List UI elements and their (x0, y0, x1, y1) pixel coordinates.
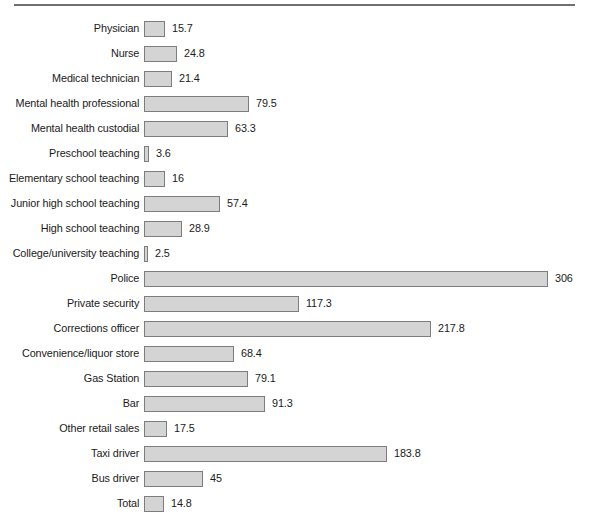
bar-value-label: 217.8 (438, 322, 465, 335)
bar-category-label: Bar (9, 397, 144, 410)
bar-row: Gas Station79.1 (0, 366, 589, 391)
bar (144, 71, 172, 87)
bar (144, 21, 165, 37)
bar-category-label: Convenience/liquor store (9, 347, 144, 360)
bar-track: 15.7 (144, 21, 589, 37)
bar-track: 183.8 (144, 446, 589, 462)
chart-plot-area: Physician15.7Nurse24.8Medical technician… (0, 16, 589, 516)
bar-row: Private security117.3 (0, 291, 589, 316)
bar-value-label: 79.1 (255, 372, 276, 385)
bar-row: Convenience/liquor store68.4 (0, 341, 589, 366)
bar-track: 17.5 (144, 421, 589, 437)
bar-value-label: 15.7 (172, 22, 193, 35)
bar-category-label: College/university teaching (9, 247, 144, 260)
bar (144, 296, 299, 312)
bar-category-label: Police (9, 272, 144, 285)
bar-track: 79.5 (144, 96, 589, 112)
bar-track: 2.5 (144, 246, 589, 262)
bar (144, 96, 249, 112)
bar-category-label: Gas Station (9, 372, 144, 385)
bar-category-label: Mental health custodial (9, 122, 144, 135)
bar-category-label: Elementary school teaching (9, 172, 144, 185)
bar (144, 321, 431, 337)
bar-value-label: 45 (210, 472, 222, 485)
bar-category-label: Bus driver (9, 472, 144, 485)
bar-value-label: 24.8 (184, 47, 205, 60)
bar-category-label: Total (9, 497, 144, 510)
bar (144, 196, 220, 212)
bar-category-label: High school teaching (9, 222, 144, 235)
bar-row: Preschool teaching3.6 (0, 141, 589, 166)
bar (144, 171, 165, 187)
bar-row: Junior high school teaching57.4 (0, 191, 589, 216)
bar-category-label: Private security (9, 297, 144, 310)
bar-category-label: Corrections officer (9, 322, 144, 335)
bar-track: 91.3 (144, 396, 589, 412)
bar-row: Nurse24.8 (0, 41, 589, 66)
bar-category-label: Physician (9, 22, 144, 35)
bar (144, 421, 167, 437)
bar-track: 16 (144, 171, 589, 187)
bar-value-label: 183.8 (394, 447, 421, 460)
bar (144, 346, 234, 362)
bar-value-label: 21.4 (179, 72, 200, 85)
bar (144, 46, 177, 62)
bar-category-label: Mental health professional (9, 97, 144, 110)
bar-row: Taxi driver183.8 (0, 441, 589, 466)
bar (144, 221, 182, 237)
bar-track: 306 (144, 271, 589, 287)
bar-row: Elementary school teaching16 (0, 166, 589, 191)
bar (144, 496, 164, 512)
bar-row: Police306 (0, 266, 589, 291)
top-divider-rule (14, 4, 575, 6)
bar (144, 471, 203, 487)
bar-value-label: 306 (555, 272, 573, 285)
bar-value-label: 16 (172, 172, 184, 185)
bar-track: 117.3 (144, 296, 589, 312)
bar-track: 21.4 (144, 71, 589, 87)
bar-category-label: Nurse (9, 47, 144, 60)
bar (144, 371, 248, 387)
bar-chart: Physician15.7Nurse24.8Medical technician… (0, 0, 589, 517)
bar-row: Mental health custodial63.3 (0, 116, 589, 141)
bar (144, 271, 548, 287)
bar-value-label: 28.9 (189, 222, 210, 235)
bar (144, 246, 148, 262)
bar-track: 217.8 (144, 321, 589, 337)
bar-row: Mental health professional79.5 (0, 91, 589, 116)
bar-track: 14.8 (144, 496, 589, 512)
bar-row: Physician15.7 (0, 16, 589, 41)
bar (144, 446, 387, 462)
bar-row: Corrections officer217.8 (0, 316, 589, 341)
bar-row: Other retail sales17.5 (0, 416, 589, 441)
bar-value-label: 3.6 (156, 147, 171, 160)
bar-track: 3.6 (144, 146, 589, 162)
bar-value-label: 17.5 (174, 422, 195, 435)
bar-category-label: Junior high school teaching (9, 197, 144, 210)
bar-category-label: Other retail sales (9, 422, 144, 435)
bar-value-label: 14.8 (171, 497, 192, 510)
bar-value-label: 2.5 (155, 247, 170, 260)
bar-row: College/university teaching2.5 (0, 241, 589, 266)
bar (144, 396, 265, 412)
bar-value-label: 117.3 (306, 297, 332, 310)
bar-category-label: Taxi driver (9, 447, 144, 460)
bar-category-label: Preschool teaching (9, 147, 144, 160)
bar-track: 57.4 (144, 196, 589, 212)
bar-value-label: 63.3 (235, 122, 256, 135)
bar-category-label: Medical technician (9, 72, 144, 85)
bar-row: Bar91.3 (0, 391, 589, 416)
bar-row: High school teaching28.9 (0, 216, 589, 241)
bar-value-label: 91.3 (272, 397, 293, 410)
bar (144, 146, 149, 162)
bar-track: 68.4 (144, 346, 589, 362)
bar-row: Total14.8 (0, 491, 589, 516)
bar-track: 79.1 (144, 371, 589, 387)
bar-row: Medical technician21.4 (0, 66, 589, 91)
bar-row: Bus driver45 (0, 466, 589, 491)
bar-value-label: 68.4 (241, 347, 262, 360)
bar-value-label: 79.5 (256, 97, 277, 110)
bar-value-label: 57.4 (227, 197, 248, 210)
bar-track: 45 (144, 471, 589, 487)
bar-track: 28.9 (144, 221, 589, 237)
